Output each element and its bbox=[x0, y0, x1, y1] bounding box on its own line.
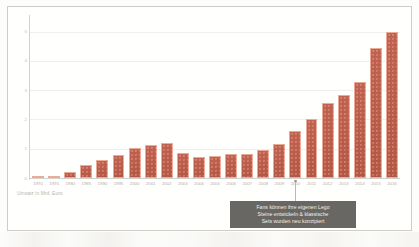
x-tick-label-2003: 2003 bbox=[175, 181, 191, 186]
x-tick-label-1990: 1990 bbox=[94, 181, 110, 186]
bar-2002 bbox=[161, 143, 173, 178]
x-tick-label-1985: 1985 bbox=[78, 181, 94, 186]
plot-area bbox=[30, 17, 400, 178]
bar-1985 bbox=[80, 165, 92, 178]
bar-2014 bbox=[354, 82, 366, 178]
bar-2010 bbox=[289, 131, 301, 178]
x-tick-label-1970: 1970 bbox=[30, 181, 46, 186]
x-tick-label-1995: 1995 bbox=[110, 181, 126, 186]
y-tick-label: 3 bbox=[8, 88, 27, 93]
bar-2015 bbox=[370, 48, 382, 178]
y-tick-label: 2 bbox=[8, 117, 27, 122]
x-tick-label-1975: 1975 bbox=[46, 181, 62, 186]
callout-connector-line bbox=[295, 182, 296, 201]
x-tick-label-2016: 2016 bbox=[384, 181, 400, 186]
bar-1990 bbox=[96, 160, 108, 178]
x-tick-label-2009: 2009 bbox=[271, 181, 287, 186]
x-tick-label-2008: 2008 bbox=[255, 181, 271, 186]
x-tick-label-2015: 2015 bbox=[368, 181, 384, 186]
annotation-callout: Fans können ihre eigenen Lego Steine ent… bbox=[230, 201, 356, 228]
scanned-page: 012345 197019751980198519901995200020012… bbox=[0, 0, 419, 247]
chart-frame: 012345 197019751980198519901995200020012… bbox=[7, 6, 412, 231]
x-tick-label-2004: 2004 bbox=[191, 181, 207, 186]
bar-2001 bbox=[145, 145, 157, 178]
y-tick-label: 1 bbox=[8, 146, 27, 151]
bar-2003 bbox=[177, 153, 189, 178]
x-tick-label-2006: 2006 bbox=[223, 181, 239, 186]
x-tick-label-2013: 2013 bbox=[336, 181, 352, 186]
bar-2007 bbox=[241, 154, 253, 178]
bar-2000 bbox=[129, 148, 141, 178]
x-tick-label-2007: 2007 bbox=[239, 181, 255, 186]
bar-2013 bbox=[338, 95, 350, 178]
bar-2009 bbox=[273, 144, 285, 178]
y-tick-label: 5 bbox=[8, 29, 27, 34]
callout-line-2: Steine entwickeln & klassische bbox=[233, 211, 353, 218]
bar-1995 bbox=[113, 155, 125, 178]
y-tick-label: 0 bbox=[8, 176, 27, 181]
bar-2012 bbox=[322, 103, 334, 178]
x-tick-label-2011: 2011 bbox=[303, 181, 319, 186]
bar-2011 bbox=[306, 119, 318, 178]
x-tick-label-2000: 2000 bbox=[127, 181, 143, 186]
callout-line-1: Fans können ihre eigenen Lego bbox=[233, 204, 353, 211]
y-tick-label: 4 bbox=[8, 58, 27, 63]
scan-noise-band bbox=[0, 232, 419, 247]
x-tick-label-2005: 2005 bbox=[207, 181, 223, 186]
x-axis-line bbox=[29, 178, 400, 179]
x-tick-label-2002: 2002 bbox=[159, 181, 175, 186]
bar-2006 bbox=[225, 154, 237, 178]
x-tick-label-2001: 2001 bbox=[143, 181, 159, 186]
axis-caption: Umsatz in Mrd. Euro bbox=[17, 191, 63, 197]
bar-2016 bbox=[386, 32, 398, 178]
bar-2004 bbox=[193, 157, 205, 178]
x-tick-label-1980: 1980 bbox=[62, 181, 78, 186]
callout-line-3: Sets wurden neu konzipiert bbox=[233, 218, 353, 225]
x-tick-label-2014: 2014 bbox=[352, 181, 368, 186]
bar-2005 bbox=[209, 156, 221, 178]
x-tick-label-2012: 2012 bbox=[320, 181, 336, 186]
bar-2008 bbox=[257, 150, 269, 178]
